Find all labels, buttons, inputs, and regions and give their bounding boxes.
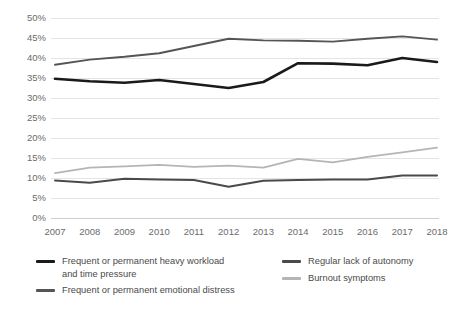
chart-svg: 0%5%10%15%20%25%30%35%40%45%50% 20072008… bbox=[0, 0, 455, 245]
y-axis-tick-label: 15% bbox=[27, 152, 47, 163]
y-axis-tick-label: 30% bbox=[27, 92, 47, 103]
x-axis-tick-label: 2013 bbox=[253, 226, 274, 237]
x-axis-tick-label: 2007 bbox=[44, 226, 65, 237]
legend-label-burnout-symptoms: Burnout symptoms bbox=[308, 272, 386, 285]
series-line-1 bbox=[55, 36, 437, 64]
y-axis-tick-label: 5% bbox=[32, 192, 46, 203]
y-axis-tick-label: 10% bbox=[27, 172, 47, 183]
legend-label-heavy-workload: Frequent or permanent heavy workload and… bbox=[62, 255, 224, 280]
series-line-3 bbox=[55, 148, 437, 174]
x-axis-tick-label: 2016 bbox=[357, 226, 378, 237]
x-axis-tick-label: 2010 bbox=[149, 226, 170, 237]
legend-swatch-burnout-symptoms bbox=[282, 277, 301, 280]
chart-legend: Frequent or permanent heavy workload and… bbox=[0, 255, 455, 317]
legend-swatch-emotional-distress bbox=[36, 289, 55, 292]
x-axis-tick-label: 2011 bbox=[184, 226, 204, 237]
y-axis-tick-label: 35% bbox=[27, 72, 47, 83]
legend-item[interactable]: Burnout symptoms bbox=[282, 272, 452, 285]
legend-swatch-heavy-workload bbox=[36, 260, 55, 263]
y-axis-tick-label: 40% bbox=[27, 52, 47, 63]
y-axis-tick-label: 25% bbox=[27, 112, 47, 123]
x-axis-tick-label: 2014 bbox=[288, 226, 309, 237]
x-axis-tick-label: 2008 bbox=[79, 226, 100, 237]
x-axis-tick-label: 2015 bbox=[322, 226, 343, 237]
plot-area: 0%5%10%15%20%25%30%35%40%45%50% 20072008… bbox=[0, 0, 455, 245]
legend-item[interactable]: Frequent or permanent heavy workload and… bbox=[36, 255, 276, 280]
x-axis-tick-label: 2017 bbox=[392, 226, 413, 237]
series-lines-group bbox=[55, 36, 437, 186]
y-axis-tick-label: 45% bbox=[27, 32, 47, 43]
legend-item[interactable]: Frequent or permanent emotional distress bbox=[36, 284, 276, 297]
legend-swatch-lack-of-autonomy bbox=[282, 260, 301, 263]
series-line-2 bbox=[55, 176, 437, 187]
gridlines-group bbox=[51, 18, 439, 218]
y-axis-ticks: 0%5%10%15%20%25%30%35%40%45%50% bbox=[27, 12, 47, 223]
series-line-0 bbox=[55, 58, 437, 88]
y-axis-tick-label: 0% bbox=[32, 212, 46, 223]
x-axis-tick-label: 2012 bbox=[218, 226, 239, 237]
legend-label-emotional-distress: Frequent or permanent emotional distress bbox=[62, 284, 235, 297]
y-axis-tick-label: 50% bbox=[27, 12, 47, 23]
legend-label-lack-of-autonomy: Regular lack of autonomy bbox=[308, 255, 413, 268]
legend-column-right: Regular lack of autonomy Burnout symptom… bbox=[282, 255, 452, 288]
legend-column-left: Frequent or permanent heavy workload and… bbox=[36, 255, 276, 301]
x-axis-tick-label: 2018 bbox=[426, 226, 447, 237]
x-axis-ticks: 2007200820092010201120122013201420152016… bbox=[44, 226, 447, 237]
y-axis-tick-label: 20% bbox=[27, 132, 47, 143]
legend-item[interactable]: Regular lack of autonomy bbox=[282, 255, 452, 268]
x-axis-tick-label: 2009 bbox=[114, 226, 135, 237]
line-chart: 0%5%10%15%20%25%30%35%40%45%50% 20072008… bbox=[0, 0, 455, 317]
